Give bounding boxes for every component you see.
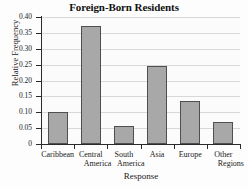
y-axis-tick-label: 0.30 — [6, 44, 32, 53]
x-axis-tick — [174, 145, 175, 149]
y-axis-tick-label: 0.35 — [6, 28, 32, 37]
gridline — [41, 65, 240, 66]
y-axis-tick — [36, 128, 41, 129]
y-axis-tick-label: 0.15 — [6, 91, 32, 100]
bar-chart: Foreign-Born Residents Relative Frequenc… — [0, 0, 248, 189]
y-axis-tick-label: 0 — [6, 139, 32, 148]
y-axis-tick — [36, 33, 41, 34]
y-axis-tick — [36, 65, 41, 66]
bar — [147, 66, 167, 144]
y-axis-tick — [36, 81, 41, 82]
plot-area — [41, 17, 240, 144]
x-axis-tick — [107, 145, 108, 149]
gridline — [41, 128, 240, 129]
y-axis-tick — [36, 49, 41, 50]
y-axis-tick — [36, 112, 41, 113]
category-label-line-2: America — [103, 159, 144, 168]
y-axis-tick — [36, 96, 41, 97]
bar — [81, 26, 101, 144]
bar — [114, 126, 134, 144]
gridline — [41, 96, 240, 97]
category-label-line-1: Other — [203, 150, 244, 159]
chart-title: Foreign-Born Residents — [0, 1, 248, 13]
x-axis-tick — [74, 145, 75, 149]
bar — [180, 101, 200, 144]
gridline — [41, 33, 240, 34]
gridline — [41, 17, 240, 18]
y-axis-line — [41, 16, 42, 145]
category-label-line-2: Regions — [203, 159, 244, 168]
y-axis-tick-label: 0.40 — [6, 12, 32, 21]
y-axis-tick-label: 0.10 — [6, 107, 32, 116]
gridline — [41, 49, 240, 50]
y-axis-tick — [36, 17, 41, 18]
y-axis-tick-label: 0.05 — [6, 123, 32, 132]
bar — [213, 122, 233, 144]
gridline — [41, 112, 240, 113]
x-axis-tick — [141, 145, 142, 149]
x-axis-tick — [207, 145, 208, 149]
y-axis-tick-label: 0.25 — [6, 60, 32, 69]
y-axis-tick-label: 0.20 — [6, 76, 32, 85]
gridline — [41, 81, 240, 82]
x-axis-tick — [41, 145, 42, 149]
x-axis-tick — [240, 145, 241, 149]
x-axis-title: Response — [41, 171, 241, 181]
x-axis-category-label: OtherRegions — [203, 150, 244, 168]
bar — [48, 112, 68, 144]
